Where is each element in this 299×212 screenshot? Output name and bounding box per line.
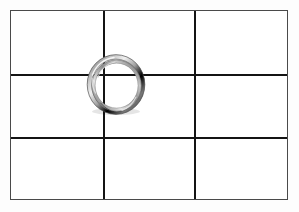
grid-cell-r3c3 bbox=[196, 139, 287, 199]
grid-line-vertical-1 bbox=[103, 11, 105, 199]
grid-panel bbox=[10, 10, 288, 200]
grid-cell-r2c1 bbox=[11, 76, 103, 137]
grid-cell-r1c2 bbox=[105, 11, 194, 74]
grid-cell-r1c3 bbox=[196, 11, 287, 74]
grid-cell-r3c1 bbox=[11, 139, 103, 199]
grid-cell-r1c1 bbox=[11, 11, 103, 74]
scene bbox=[0, 0, 299, 212]
grid-line-horizontal-2 bbox=[11, 137, 287, 139]
grid-cell-r2c3 bbox=[196, 76, 287, 137]
grid-cell-r3c2 bbox=[105, 139, 194, 199]
grid-line-vertical-2 bbox=[194, 11, 196, 199]
grid-cell-r2c2 bbox=[105, 76, 194, 137]
grid-line-horizontal-1 bbox=[11, 74, 287, 76]
